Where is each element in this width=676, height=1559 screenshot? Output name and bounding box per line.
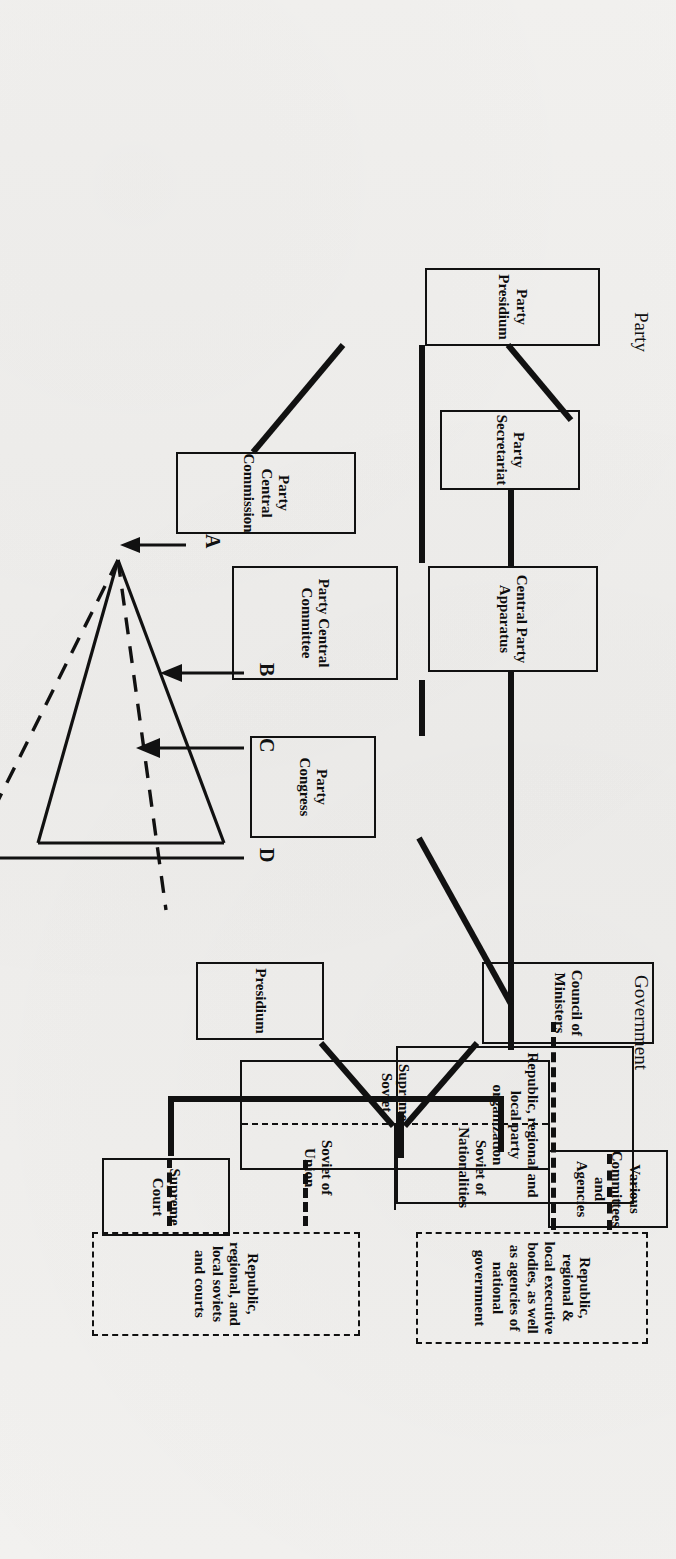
fan-ray-solid-lower — [38, 560, 118, 843]
box-republic-regional-local-executive[interactable]: Republic, regional & local executive bod… — [416, 1232, 648, 1344]
box-supreme-soviet[interactable]: Supreme Soviet Soviet of Nationalities S… — [240, 1060, 550, 1170]
fan-label-d: D — [255, 848, 278, 862]
chamber-soviet-of-nationalities: Soviet of Nationalities — [394, 1125, 548, 1210]
fan-label-a: A — [201, 534, 224, 548]
connector-trunk-supreme-court — [168, 1096, 174, 1156]
fan-arrow-b — [160, 664, 244, 682]
box-supreme-court[interactable]: Supreme Court — [102, 1158, 230, 1236]
fan-arrow-d — [0, 848, 244, 868]
organization-chart-figure: Party Party Presidium Party Secretariat … — [0, 0, 676, 1559]
chamber-soviet-of-union: Soviet of Union — [242, 1125, 394, 1210]
fan-ray-solid-upper — [118, 560, 224, 843]
supreme-soviet-label: Supreme Soviet — [242, 1062, 548, 1125]
box-various-committees[interactable]: Various Committees and Agencies — [548, 1150, 668, 1228]
box-republic-regional-local-soviets[interactable]: Republic, regional, and local soviets an… — [92, 1232, 360, 1336]
box-council-of-ministers[interactable]: Council of Ministers — [482, 962, 654, 1044]
fan-ray-dashed-lower — [0, 560, 118, 905]
fan-label-c: C — [255, 738, 278, 752]
box-presidium[interactable]: Presidium — [196, 962, 324, 1040]
fan-arrow-a — [120, 537, 186, 553]
fan-label-b: B — [255, 663, 278, 676]
rotated-diagram-canvas: Party Party Presidium Party Secretariat … — [0, 0, 676, 1559]
